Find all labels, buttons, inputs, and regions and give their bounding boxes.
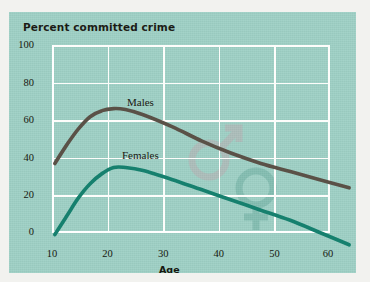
chart-figure: Percent committed crime [9, 12, 356, 273]
data-curves [9, 12, 356, 273]
series-line-females [55, 167, 349, 245]
y-tick-20: 20 [9, 189, 34, 200]
y-tick-100: 100 [9, 39, 34, 50]
series-label-females: Females [122, 149, 159, 161]
y-tick-40: 40 [9, 152, 34, 163]
x-tick-40: 40 [199, 248, 239, 259]
series-label-males: Males [127, 96, 154, 108]
x-tick-10: 10 [32, 248, 72, 259]
x-tick-30: 30 [143, 248, 183, 259]
x-tick-60: 60 [308, 248, 348, 259]
y-tick-0: 0 [9, 226, 34, 237]
x-tick-20: 20 [88, 248, 128, 259]
x-tick-50: 50 [254, 248, 294, 259]
y-tick-80: 80 [9, 77, 34, 88]
y-tick-60: 60 [9, 114, 34, 125]
x-axis-label: Age [159, 264, 180, 273]
